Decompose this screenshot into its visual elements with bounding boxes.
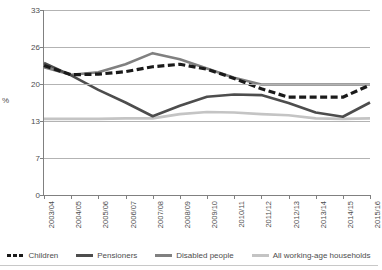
y-axis-tick: 26 [14, 43, 40, 52]
chart-legend: ChildrenPensionersDisabled peopleAll wor… [0, 248, 378, 262]
x-axis-tick: 2014/15 [346, 201, 355, 228]
x-axis-tick: 2007/08 [156, 201, 165, 228]
y-axis-tick-mark [40, 47, 44, 48]
x-axis-tick: 2012/13 [292, 201, 301, 228]
y-axis-tick-mark [40, 121, 44, 122]
series-lines [44, 10, 370, 195]
legend-item[interactable]: Children [7, 251, 58, 260]
x-axis-tick: 2004/05 [74, 201, 83, 228]
x-axis-tick: 2009/10 [210, 201, 219, 228]
y-axis-tick: 20 [14, 80, 40, 89]
legend-item[interactable]: All working-age households [252, 251, 371, 260]
x-axis-tick-mark [207, 195, 208, 199]
x-axis-tick: 2015/16 [373, 201, 382, 228]
x-axis-tick-mark [44, 195, 45, 199]
x-axis-tick-mark [316, 195, 317, 199]
legend-swatch-icon [155, 254, 172, 257]
x-axis-tick-mark [343, 195, 344, 199]
y-axis-tick-mark [40, 195, 44, 196]
x-axis-tick-mark [126, 195, 127, 199]
legend-swatch-icon [76, 254, 93, 257]
x-axis-tick-mark [180, 195, 181, 199]
x-axis-tick: 2013/14 [319, 201, 328, 228]
x-axis-tick: 2011/12 [264, 201, 273, 228]
y-axis-tick: 0 [14, 191, 40, 200]
legend-swatch-icon [7, 254, 24, 257]
y-axis-tick: 13 [14, 117, 40, 126]
legend-label: Children [28, 251, 58, 260]
x-axis-tick: 2003/04 [47, 201, 56, 228]
x-axis-tick-mark [289, 195, 290, 199]
x-axis-tick: 2008/09 [183, 201, 192, 228]
legend-label: Disabled people [176, 251, 233, 260]
x-axis-tick-mark [370, 195, 371, 199]
series-line [44, 63, 370, 117]
gridline [44, 158, 370, 159]
y-axis-label: % [2, 96, 9, 105]
x-axis-tick-mark [234, 195, 235, 199]
x-axis-tick-mark [153, 195, 154, 199]
plot-area [44, 10, 370, 195]
legend-divider [0, 265, 378, 266]
y-axis-tick-mark [40, 10, 44, 11]
legend-label: All working-age households [273, 251, 371, 260]
legend-label: Pensioners [97, 251, 137, 260]
legend-swatch-icon [252, 254, 269, 257]
x-axis-tick: 2006/07 [129, 201, 138, 228]
y-axis-tick: 33 [14, 6, 40, 15]
legend-item[interactable]: Pensioners [76, 251, 137, 260]
gridline [44, 84, 370, 85]
gridline [44, 10, 370, 11]
x-axis-tick-mark [261, 195, 262, 199]
y-axis-tick-mark [40, 84, 44, 85]
y-axis-tick-mark [40, 158, 44, 159]
y-axis-tick: 7 [14, 154, 40, 163]
legend-item[interactable]: Disabled people [155, 251, 233, 260]
y-axis-tick-labels: 3326201370 [10, 0, 40, 270]
x-axis-tick-mark [98, 195, 99, 199]
x-axis-tick-mark [71, 195, 72, 199]
x-axis-tick: 2010/11 [237, 201, 246, 228]
gridline [44, 47, 370, 48]
x-axis-tick: 2005/06 [101, 201, 110, 228]
series-line [44, 53, 370, 84]
gridline [44, 121, 370, 122]
